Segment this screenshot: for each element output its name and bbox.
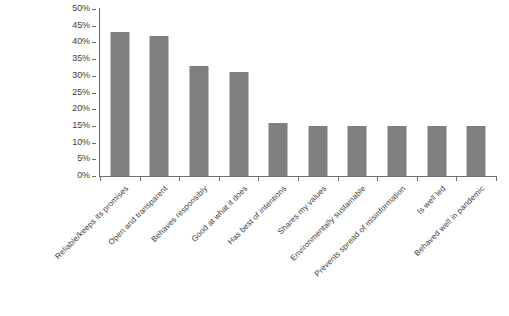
y-axis-tick-mark (92, 176, 96, 177)
bar[interactable] (427, 126, 446, 176)
bar[interactable] (467, 126, 486, 176)
bar-slot (338, 9, 378, 176)
x-axis-tick-mark (338, 177, 339, 181)
x-axis-label: Behaves responsibly (149, 184, 209, 244)
bar-slot (377, 9, 417, 176)
y-axis-tick-mark (92, 26, 96, 27)
y-axis-tick-mark (92, 9, 96, 10)
x-axis-label: Open and transparent (107, 184, 170, 247)
bar-series (100, 9, 496, 176)
y-axis-tick-mark (92, 59, 96, 60)
x-axis-tick-mark (219, 177, 220, 181)
bar-slot (417, 9, 457, 176)
y-axis-tick-mark (92, 143, 96, 144)
y-axis-tick-mark (92, 42, 96, 43)
y-axis-tick-label: 0% (77, 170, 90, 180)
bar-slot (219, 9, 259, 176)
x-axis-tick-mark (140, 177, 141, 181)
bar-slot (140, 9, 180, 176)
y-axis-tick-label: 30% (72, 70, 90, 80)
bar-chart: 0% 5% 10% 15% 20% 25% 30% 35% (0, 0, 509, 316)
x-axis-tick-mark (377, 177, 378, 181)
x-axis-label: Has best of intentions (226, 184, 288, 246)
x-axis-tick-mark (258, 177, 259, 181)
bar[interactable] (269, 123, 288, 176)
x-axis-tick-mark (496, 177, 497, 181)
x-axis-label: Is well led (415, 184, 447, 216)
bar[interactable] (110, 32, 129, 176)
bar-slot (456, 9, 496, 176)
x-axis-label: Reliable/keeps its promises (53, 184, 130, 261)
bar-slot (258, 9, 298, 176)
bar[interactable] (229, 72, 248, 176)
y-axis-tick-label: 35% (72, 53, 90, 63)
x-axis-label: Shares my values (276, 184, 328, 236)
y-axis-tick-mark (92, 159, 96, 160)
x-axis-label: Environmentally sustainable (289, 184, 368, 263)
y-axis-tick-label: 40% (72, 36, 90, 46)
y-axis-tick-label: 45% (72, 20, 90, 30)
y-axis-tick-label: 10% (72, 137, 90, 147)
x-axis-label: Prevents spread of misinformation (313, 184, 408, 279)
bar[interactable] (387, 126, 406, 176)
bar[interactable] (348, 126, 367, 176)
bar-slot (298, 9, 338, 176)
y-axis-tick-mark (92, 93, 96, 94)
y-axis-tick-label: 25% (72, 87, 90, 97)
bar[interactable] (308, 126, 327, 176)
bar-slot (179, 9, 219, 176)
y-axis-tick-label: 50% (72, 3, 90, 13)
x-axis-label: Behaved well in pandemic (413, 184, 487, 258)
y-axis-tick-mark (92, 126, 96, 127)
y-axis-tick-label: 5% (77, 153, 90, 163)
bar[interactable] (189, 66, 208, 176)
y-axis: 0% 5% 10% 15% 20% 25% 30% 35% (0, 0, 100, 186)
x-axis-tick-mark (179, 177, 180, 181)
y-axis-tick-label: 20% (72, 103, 90, 113)
y-axis-tick-mark (92, 109, 96, 110)
y-axis-tick-mark (92, 76, 96, 77)
x-axis-tick-mark (456, 177, 457, 181)
y-axis-tick-label: 15% (72, 120, 90, 130)
x-axis-tick-mark (298, 177, 299, 181)
bar[interactable] (150, 36, 169, 176)
x-axis-tick-mark (100, 177, 101, 181)
x-axis-label: Good at what it does (189, 184, 249, 244)
x-axis-ticks (100, 177, 496, 182)
bar-slot (100, 9, 140, 176)
x-axis-tick-mark (417, 177, 418, 181)
